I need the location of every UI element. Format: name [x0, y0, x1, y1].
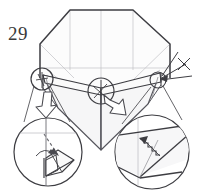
origami-diagram-svg — [0, 0, 204, 191]
origami-step-figure: 29 — [0, 0, 204, 191]
detail-circle-right-group — [113, 115, 196, 190]
detail-circle-left-group — [14, 118, 82, 186]
